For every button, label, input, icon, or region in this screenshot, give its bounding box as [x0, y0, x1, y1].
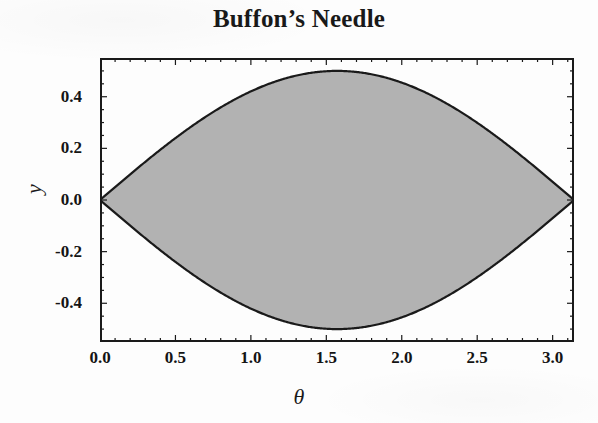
shaded-region: [100, 71, 574, 329]
x-tick-label: 1.0: [240, 348, 261, 368]
x-tick-label: 3.0: [542, 348, 563, 368]
chart-title: Buffon’s Needle: [0, 5, 598, 33]
x-tick-label: 0.0: [89, 348, 110, 368]
y-tick-label: 0.4: [61, 87, 82, 107]
y-tick-label: -0.2: [55, 242, 82, 262]
y-tick-label: 0.0: [61, 190, 82, 210]
y-axis-label: y: [21, 171, 47, 207]
x-tick-label: 0.5: [165, 348, 186, 368]
y-tick-label: 0.2: [61, 138, 82, 158]
plot-svg: [100, 58, 574, 342]
x-tick-label: 1.5: [316, 348, 337, 368]
x-tick-label: 2.0: [391, 348, 412, 368]
plot-area: [100, 58, 574, 342]
chart-figure: Buffon’s Needle 0.00.51.01.52.02.53.0 0.…: [0, 0, 598, 423]
x-axis-label: θ: [0, 384, 598, 410]
x-tick-label: 2.5: [467, 348, 488, 368]
y-tick-label: -0.4: [55, 293, 82, 313]
